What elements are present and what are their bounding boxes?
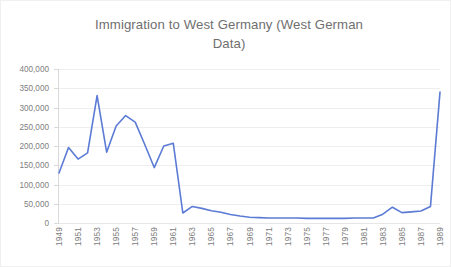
- y-axis-tick-label: 350,000: [19, 84, 49, 93]
- y-axis-tick-mark: [54, 88, 58, 89]
- x-axis-tick-label: 1973: [284, 227, 293, 246]
- x-axis-tick-label: 1989: [436, 227, 445, 246]
- x-axis-tick-label: 1983: [379, 227, 388, 246]
- x-axis-tick-label: 1965: [207, 227, 216, 246]
- y-axis-tick-mark: [54, 127, 58, 128]
- chart-title-line-2: Data): [213, 36, 246, 51]
- x-axis-tick-label: 1955: [112, 227, 121, 246]
- x-axis-tick-label: 1967: [226, 227, 235, 246]
- x-axis-tick-label: 1959: [150, 227, 159, 246]
- x-axis: 1949195119531955195719591961196319651967…: [59, 225, 440, 267]
- x-axis-tick-label: 1949: [55, 227, 64, 246]
- x-axis-tick-label: 1971: [265, 227, 274, 246]
- y-axis-tick-mark: [54, 204, 58, 205]
- x-axis-tick-label: 1969: [246, 227, 255, 246]
- y-axis-tick-mark: [54, 165, 58, 166]
- x-axis-tick-label: 1981: [360, 227, 369, 246]
- chart-card: Immigration to West Germany (West German…: [0, 0, 451, 267]
- y-axis-tick-label: 200,000: [19, 142, 49, 151]
- x-axis-tick-label: 1951: [74, 227, 83, 246]
- x-axis-tick-label: 1963: [188, 227, 197, 246]
- series-line-immigration: [59, 92, 440, 218]
- y-axis-tick-mark: [54, 146, 58, 147]
- x-axis-tick-label: 1979: [341, 227, 350, 246]
- y-axis: 050,000100,000150,000200,000250,000300,0…: [1, 61, 53, 231]
- y-axis-tick-mark: [54, 223, 58, 224]
- x-axis-tick-label: 1957: [131, 227, 140, 246]
- y-axis-tick-label: 250,000: [19, 122, 49, 131]
- plot-area: [59, 69, 440, 223]
- x-axis-tick-label: 1975: [303, 227, 312, 246]
- y-axis-tick-mark: [54, 185, 58, 186]
- series-line-chart: [59, 69, 440, 223]
- y-axis-tick-mark: [54, 69, 58, 70]
- x-axis-tick-label: 1961: [169, 227, 178, 246]
- chart-title: Immigration to West Germany (West German…: [39, 15, 419, 53]
- y-axis-tick-mark: [54, 108, 58, 109]
- y-axis-tick-label: 300,000: [19, 103, 49, 112]
- y-axis-tick-label: 100,000: [19, 180, 49, 189]
- y-axis-tick-label: 400,000: [19, 65, 49, 74]
- y-axis-tick-label: 150,000: [19, 161, 49, 170]
- gridline: [59, 223, 440, 224]
- y-axis-tick-label: 50,000: [24, 199, 49, 208]
- x-axis-tick-label: 1987: [417, 227, 426, 246]
- x-axis-tick-label: 1977: [322, 227, 331, 246]
- x-axis-tick-label: 1985: [398, 227, 407, 246]
- chart-title-line-1: Immigration to West Germany (West German: [95, 17, 363, 32]
- x-axis-tick-label: 1953: [93, 227, 102, 246]
- y-axis-tick-label: 0: [44, 219, 49, 228]
